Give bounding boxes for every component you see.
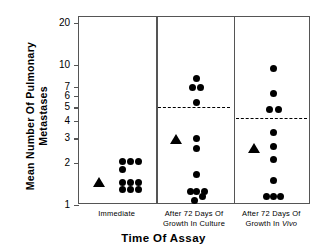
y-tick-7 [74, 87, 79, 88]
y-tick-2 [74, 163, 79, 164]
y-tick-label-1: 1 [30, 200, 70, 210]
y-tick-label-3: 3 [30, 133, 70, 143]
data-point [135, 179, 142, 186]
data-point [263, 193, 270, 200]
data-point [127, 179, 134, 186]
data-point [270, 129, 277, 136]
x-axis-title: Time Of Assay [0, 232, 327, 244]
data-point [266, 106, 273, 113]
x-group-label-2: After 72 Days OfGrowth In Vivo [233, 209, 310, 229]
data-point [189, 84, 196, 91]
plot-area: 12345671020 [78, 16, 310, 204]
mean-line-2 [236, 118, 307, 119]
data-point [119, 186, 126, 193]
data-point [277, 193, 284, 200]
data-point [127, 186, 134, 193]
data-point [193, 135, 200, 142]
data-point [193, 171, 200, 178]
data-point [270, 143, 277, 150]
x-group-label-0: Immediate [78, 209, 155, 219]
panel-divider-2 [234, 17, 236, 203]
y-tick-label-7: 7 [30, 82, 70, 92]
y-tick-5 [74, 107, 79, 108]
y-tick-3 [74, 138, 79, 139]
data-point [197, 84, 204, 91]
data-point [119, 179, 126, 186]
data-point [193, 75, 200, 82]
data-point [119, 166, 126, 173]
data-point [275, 106, 282, 113]
data-point [270, 90, 277, 97]
panel-divider-1 [156, 17, 158, 203]
data-point [191, 197, 198, 204]
y-tick-label-10: 10 [30, 60, 70, 70]
y-tick-10 [74, 65, 79, 66]
mean-line-1 [158, 107, 229, 108]
data-point [193, 145, 200, 152]
data-point [119, 158, 126, 165]
y-tick-label-2: 2 [30, 158, 70, 168]
data-point [270, 156, 277, 163]
mean-triangle-0 [93, 177, 105, 187]
figure: Mean Number Of Pulmonary Metastases 1234… [0, 0, 327, 250]
y-tick-4 [74, 121, 79, 122]
data-point [270, 193, 277, 200]
data-point [127, 158, 134, 165]
y-tick-label-5: 5 [30, 102, 70, 112]
data-point [193, 99, 200, 106]
data-point [270, 65, 277, 72]
y-tick-label-20: 20 [30, 18, 70, 28]
mean-triangle-1 [170, 134, 182, 144]
data-point [270, 177, 277, 184]
data-point [135, 186, 142, 193]
y-tick-20 [74, 23, 79, 24]
mean-triangle-2 [248, 143, 260, 153]
y-tick-1 [74, 205, 79, 206]
y-tick-label-6: 6 [30, 91, 70, 101]
y-tick-6 [74, 96, 79, 97]
x-group-label-1: After 72 Days Of Growth In Culture [155, 209, 232, 229]
y-tick-label-4: 4 [30, 116, 70, 126]
data-point [201, 188, 208, 195]
data-point [135, 158, 142, 165]
